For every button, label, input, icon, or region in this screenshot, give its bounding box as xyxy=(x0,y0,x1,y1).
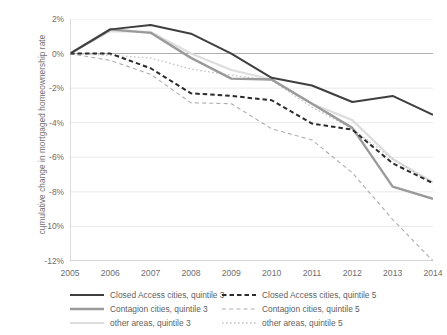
legend-item[interactable]: Closed Access cities, quintile 5 xyxy=(222,288,402,302)
legend-line-swatch xyxy=(70,318,104,328)
y-tick-label: -4% xyxy=(24,119,64,127)
series-line xyxy=(70,25,433,115)
x-tick-label: 2009 xyxy=(211,269,251,278)
x-tick-label: 2012 xyxy=(332,269,372,278)
x-tick-label: 2008 xyxy=(171,269,211,278)
legend-label: other areas, quintile 3 xyxy=(110,318,191,328)
y-tick-label: -12% xyxy=(24,257,64,265)
y-tick-label: 2% xyxy=(24,15,64,23)
legend-label: Contagion cities, quintile 3 xyxy=(110,304,208,314)
x-tick-label: 2014 xyxy=(413,269,447,278)
y-tick-label: -6% xyxy=(24,153,64,161)
y-tick-label: -10% xyxy=(24,222,64,230)
x-tick-label: 2011 xyxy=(292,269,332,278)
x-tick-label: 2010 xyxy=(252,269,292,278)
legend-item[interactable]: Closed Access cities, quintile 3 xyxy=(70,288,222,302)
axes xyxy=(70,19,433,261)
y-tick-label: -2% xyxy=(24,84,64,92)
x-tick-label: 2013 xyxy=(373,269,413,278)
legend-label: Closed Access cities, quintile 3 xyxy=(110,290,225,300)
legend-item[interactable]: other areas, quintile 3 xyxy=(70,316,222,330)
line-chart-svg xyxy=(70,19,433,261)
legend-item[interactable]: Contagion cities, quintile 5 xyxy=(222,302,402,316)
series-line xyxy=(70,54,433,184)
legend-label: Closed Access cities, quintile 5 xyxy=(262,290,377,300)
series-line xyxy=(70,54,433,184)
legend-line-swatch xyxy=(222,304,256,314)
legend-label: other areas, quintile 5 xyxy=(262,318,343,328)
legend-line-swatch xyxy=(222,290,256,300)
legend-label: Contagion cities, quintile 5 xyxy=(262,304,360,314)
legend-line-swatch xyxy=(70,290,104,300)
legend-item[interactable]: other areas, quintile 5 xyxy=(222,316,402,330)
series-line xyxy=(70,29,433,198)
legend-line-swatch xyxy=(222,318,256,328)
legend-item[interactable]: Contagion cities, quintile 3 xyxy=(70,302,222,316)
x-tick-label: 2006 xyxy=(90,269,130,278)
plot-area xyxy=(70,19,433,261)
chart-legend: Closed Access cities, quintile 3Closed A… xyxy=(70,288,410,330)
x-tick-label: 2005 xyxy=(50,269,90,278)
x-tick-label: 2007 xyxy=(131,269,171,278)
y-tick-label: 0% xyxy=(24,49,64,57)
legend-line-swatch xyxy=(70,304,104,314)
y-tick-label: -8% xyxy=(24,188,64,196)
